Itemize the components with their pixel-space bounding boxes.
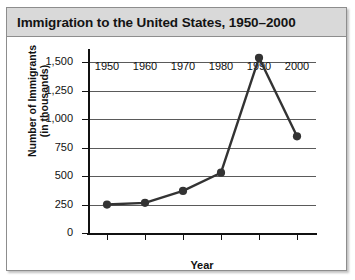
y-axis-title-line1: Number of Immigrants (26, 21, 38, 181)
x-tick (145, 233, 146, 240)
y-tick-label: 750 (55, 141, 73, 153)
data-point (179, 187, 187, 195)
y-tick-label: 250 (55, 198, 73, 210)
y-axis-title: Number of Immigrants (in thousands) (26, 21, 50, 181)
x-tick (221, 233, 222, 240)
data-point (217, 169, 225, 177)
x-axis-title: Year (88, 259, 316, 271)
y-tick-label: 0 (67, 226, 73, 238)
chart-title-bar: Immigration to the United States, 1950–2… (7, 8, 346, 37)
y-tick-label: 1,500 (45, 55, 73, 67)
plot-area: 02505007501,0001,2501,500 19501960197019… (88, 51, 316, 233)
x-axis-line (87, 233, 317, 235)
x-tick (297, 233, 298, 240)
x-tick (107, 233, 108, 240)
data-point (293, 132, 301, 140)
data-point (141, 199, 149, 207)
plot-region: Number of Immigrants (in thousands) 0250… (7, 37, 346, 270)
x-tick (259, 233, 260, 240)
y-tick-label: 1,250 (45, 84, 73, 96)
x-tick (183, 233, 184, 240)
y-tick-label: 500 (55, 169, 73, 181)
data-series (88, 51, 316, 233)
y-tick-label: 1,000 (45, 112, 73, 124)
data-point (103, 200, 111, 208)
series-line (107, 58, 297, 205)
page-title: Immigration to the United States, 1950–2… (7, 15, 296, 30)
y-axis-title-line2: (in thousands) (38, 21, 50, 181)
data-point (255, 54, 263, 62)
chart-figure: Immigration to the United States, 1950–2… (6, 7, 347, 271)
